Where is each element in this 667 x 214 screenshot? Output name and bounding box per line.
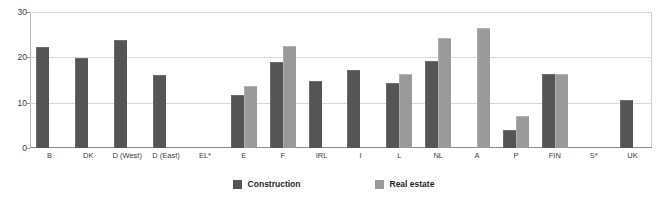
bar-construction-uk[interactable] <box>620 100 633 148</box>
bar-group-e <box>224 12 263 148</box>
y-tick-label-10: 10 <box>3 99 27 107</box>
x-tick-label-el: EL* <box>186 151 225 161</box>
x-tick-label-i: I <box>341 151 380 161</box>
bar-real-estate-p[interactable] <box>516 116 529 148</box>
x-tick-label-a: A <box>458 151 497 161</box>
bar-group-nl <box>419 12 458 148</box>
x-tick-label-dk: DK <box>69 151 108 161</box>
y-tick-label-30: 30 <box>3 8 27 16</box>
bar-real-estate-fin[interactable] <box>555 74 568 148</box>
y-tick-label-20: 20 <box>3 53 27 61</box>
bar-construction-p[interactable] <box>503 130 516 148</box>
bar-construction-e[interactable] <box>231 95 244 148</box>
bar-construction-d-east[interactable] <box>153 75 166 148</box>
x-tick-label-fin: FIN <box>535 151 574 161</box>
bar-group-p <box>497 12 536 148</box>
x-tick-label-p: P <box>497 151 536 161</box>
plot-area <box>30 12 652 148</box>
x-tick-label-b: B <box>30 151 69 161</box>
bar-construction-irl[interactable] <box>309 81 322 148</box>
chart-legend: Construction Real estate <box>0 180 667 189</box>
x-tick-label-nl: NL <box>419 151 458 161</box>
legend-swatch-construction-icon <box>233 180 242 189</box>
x-tick-label-uk: UK <box>613 151 652 161</box>
bar-construction-b[interactable] <box>36 47 49 148</box>
legend-item-real-estate[interactable]: Real estate <box>375 180 435 189</box>
bar-construction-nl[interactable] <box>425 61 438 148</box>
bar-real-estate-e[interactable] <box>244 86 257 148</box>
y-axis: 30 20 10 0 <box>0 12 27 148</box>
bar-real-estate-a[interactable] <box>477 28 490 148</box>
bar-group-i <box>341 12 380 148</box>
x-tick-label-d-east: D (East) <box>147 151 186 161</box>
bar-group-b <box>30 12 69 148</box>
bar-real-estate-nl[interactable] <box>438 38 451 148</box>
bar-construction-f[interactable] <box>270 62 283 148</box>
legend-item-construction[interactable]: Construction <box>233 180 301 189</box>
bar-construction-d-west[interactable] <box>114 40 127 148</box>
bar-construction-dk[interactable] <box>75 58 88 148</box>
bar-group-a <box>458 12 497 148</box>
y-tick-mark-0 <box>27 148 30 149</box>
bar-group-d-west <box>108 12 147 148</box>
bar-group-l <box>380 12 419 148</box>
bar-construction-fin[interactable] <box>542 74 555 148</box>
x-tick-label-d-west: D (West) <box>108 151 147 161</box>
bar-construction-i[interactable] <box>347 70 360 148</box>
bar-group-d-east <box>147 12 186 148</box>
bar-group-dk <box>69 12 108 148</box>
bar-group-uk <box>613 12 652 148</box>
bar-group-irl <box>302 12 341 148</box>
x-tick-label-e: E <box>224 151 263 161</box>
bar-group-el <box>186 12 225 148</box>
bar-group-f <box>263 12 302 148</box>
x-tick-label-irl: IRL <box>302 151 341 161</box>
bar-group-s <box>574 12 613 148</box>
legend-swatch-real-estate-icon <box>375 180 384 189</box>
bar-group-fin <box>535 12 574 148</box>
x-tick-label-s: S* <box>574 151 613 161</box>
x-tick-label-l: L <box>380 151 419 161</box>
y-tick-label-0: 0 <box>3 144 27 152</box>
legend-label-real-estate: Real estate <box>390 180 435 189</box>
bar-chart: 30 20 10 0 BDKD (West)D (East)EL*EFIRLIL… <box>0 0 667 214</box>
bars-layer <box>30 12 652 148</box>
x-axis-labels: BDKD (West)D (East)EL*EFIRLILNLAPFINS*UK <box>30 151 652 165</box>
bar-construction-l[interactable] <box>386 83 399 148</box>
bar-real-estate-l[interactable] <box>399 74 412 148</box>
legend-label-construction: Construction <box>248 180 301 189</box>
x-tick-label-f: F <box>263 151 302 161</box>
bar-real-estate-f[interactable] <box>283 46 296 148</box>
